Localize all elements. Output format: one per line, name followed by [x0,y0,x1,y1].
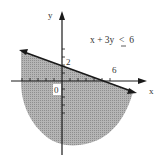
y-axis-label: y [48,10,53,20]
origin-label: 0 [54,85,59,95]
y-axis-arrow-icon [59,11,65,20]
x-axis-arrow-icon [138,78,147,84]
x-intercept-label: 6 [112,65,117,75]
y-intercept-label: 2 [66,57,71,67]
boundary-arrow-right-icon [127,88,137,94]
inequality-label: x + 3y < 6 [90,35,134,45]
inequality-graph: 0 2 6 y x x + 3y < 6 [0,0,160,165]
x-axis-label: x [149,86,154,96]
